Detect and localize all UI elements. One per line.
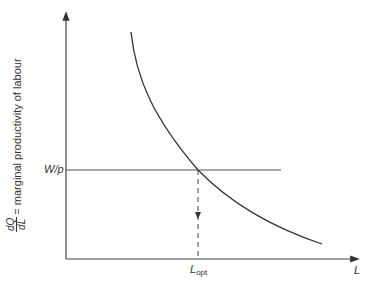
down-arrow-icon [195,212,201,219]
x-axis-label: L [354,264,360,276]
diagram-canvas [0,0,379,287]
dq-dl-fraction: dQ dL [6,217,27,232]
marginal-productivity-curve [131,32,322,244]
wage-price-label: W/p [44,163,64,175]
y-axis-label: dQ dL = marginal productivity of labour [6,58,27,232]
lopt-label: Lopt [190,263,207,277]
